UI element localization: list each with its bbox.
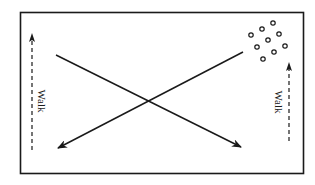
walk-left-label: Walk [36, 90, 48, 113]
player-marker [260, 27, 264, 31]
player-marker [272, 50, 276, 54]
players-group [249, 21, 287, 61]
walk-left-arrowhead-icon [29, 33, 35, 42]
player-marker [266, 38, 270, 42]
drill-diagram: Walk Walk [0, 0, 315, 185]
field-boundary [21, 13, 304, 174]
player-marker [271, 21, 275, 25]
player-marker [283, 44, 287, 48]
player-marker [249, 33, 253, 37]
player-marker [277, 32, 281, 36]
player-marker [261, 57, 265, 61]
player-marker [255, 45, 259, 49]
walk-right-label: Walk [273, 91, 285, 114]
